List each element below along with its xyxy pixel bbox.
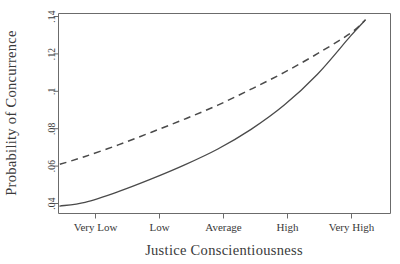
x-tick-label-high: High xyxy=(277,221,300,233)
x-tick-label-average: Average xyxy=(205,221,242,233)
y-tick-label-0.06: .06 xyxy=(47,160,57,173)
y-tick-label-0.12: .12 xyxy=(47,48,57,61)
chart-svg: .14 .12 .1 .08 .06 .04 Very Low Low Aver… xyxy=(0,0,400,264)
x-axis-title: Justice Conscientiousness xyxy=(145,242,303,258)
y-tick-label-0.1: .1 xyxy=(47,87,57,95)
y-tick-label-0.04: .04 xyxy=(47,197,57,210)
y-axis-title: Probability of Concurrence xyxy=(3,30,19,196)
y-tick-label-0.08: .08 xyxy=(47,122,57,135)
chart-figure: .14 .12 .1 .08 .06 .04 Very Low Low Aver… xyxy=(0,0,400,264)
x-tick-label-very-high: Very High xyxy=(329,221,375,233)
x-tick-label-low: Low xyxy=(149,221,169,233)
y-tick-label-0.14: .14 xyxy=(47,10,57,23)
x-tick-label-very-low: Very Low xyxy=(74,221,118,233)
